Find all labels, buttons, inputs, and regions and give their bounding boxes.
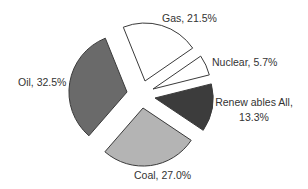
label-renewables-line2: 13.3% — [239, 111, 269, 123]
label-coal: Coal, 27.0% — [134, 169, 191, 181]
label-renewables-line1: Renew ables All, — [215, 96, 293, 108]
slice-oil — [69, 38, 127, 136]
slice-coal — [105, 108, 191, 166]
label-nuclear: Nuclear, 5.7% — [212, 56, 277, 68]
pie-chart: Gas, 21.5% Nuclear, 5.7% Renew ables All… — [0, 0, 308, 189]
slices — [69, 23, 213, 166]
label-oil: Oil, 32.5% — [18, 76, 66, 88]
label-gas: Gas, 21.5% — [162, 12, 217, 24]
